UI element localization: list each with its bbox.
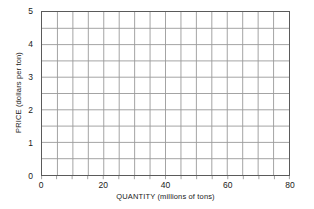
x-axis-title: QUANTITY (millions of tons) [41,192,290,201]
x-axis-tick-label: 40 [146,180,186,190]
chart-figure: 020406080 012345 QUANTITY (millions of t… [0,0,314,209]
x-axis-tick-label: 20 [83,180,123,190]
y-axis-tick-label: 0 [0,171,33,181]
x-axis-tick-label: 60 [208,180,248,190]
gridlines [42,12,289,175]
y-axis-title: PRICE (dollars per ton) [14,13,23,173]
x-axis-tick-label: 0 [21,180,61,190]
plot-area [41,11,290,176]
x-axis-tick-label: 80 [270,180,310,190]
